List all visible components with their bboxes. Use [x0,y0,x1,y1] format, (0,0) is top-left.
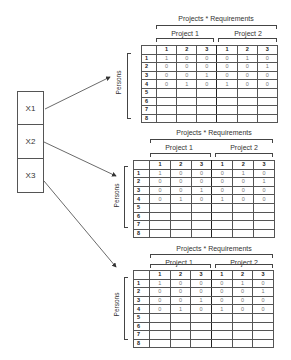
requirement-header: 1 [150,271,171,280]
requirement-header: 1 [217,46,237,55]
assignment-cell: 0 [170,288,191,297]
assignment-cell: 0 [217,54,237,63]
assignment-cell: 0 [150,288,171,297]
assignment-cell [197,88,217,97]
persons-axis-label: Persons [115,63,122,103]
arrow-x3-to-matrix-3 [44,181,116,267]
assignment-cell: 0 [191,305,212,314]
table-row: 7 [134,221,275,230]
person-label: 6 [142,97,157,106]
assignment-cell [191,331,212,340]
requirement-header: 2 [232,271,253,280]
assignment-cell: 0 [157,71,177,80]
assignment-cell [254,229,275,238]
arrow-x2-to-matrix-2 [44,142,116,176]
assignment-cell: 0 [150,178,171,187]
assignment-cell: 0 [157,80,177,89]
assignment-cell: 1 [233,169,254,178]
assignment-cell [257,114,277,123]
assignment-cell [150,229,171,238]
assignment-cell: 0 [217,71,237,80]
requirement-header: 1 [157,46,177,55]
project-1-bracket [150,264,211,268]
assignment-cell: 0 [253,305,274,314]
persons-bracket [124,277,128,340]
source-box-x1: X1 [17,91,44,125]
person-label: 8 [142,114,157,123]
person-label: 4 [142,80,157,89]
assignment-cell [157,114,177,123]
assignment-cell [177,106,197,115]
table-row: 1100010 [134,279,274,288]
table-row: 6 [134,322,274,331]
assignment-cell [254,221,275,230]
person-label: 2 [142,63,157,72]
project-2-bracket [218,38,277,42]
assignment-cell [191,203,212,212]
project-2-label: Project 2 [220,30,276,37]
assignment-cell: 0 [211,279,232,288]
assignment-cell [170,203,191,212]
assignment-cell: 0 [191,288,212,297]
assignment-cell [217,97,237,106]
person-label: 8 [134,339,150,348]
assignment-cell [211,313,232,322]
table-row: 2000001 [134,178,275,187]
assignment-cell [191,221,212,230]
assignment-cell: 1 [170,305,191,314]
assignment-cell [150,203,171,212]
source-box-x3: X3 [17,159,44,193]
assignment-cell [217,114,237,123]
assignment-cell: 0 [212,169,233,178]
projects-bracket [150,139,273,143]
person-label: 1 [142,54,157,63]
project-2-label: Project 2 [216,144,272,151]
arrow-x1-to-matrix-1 [45,77,110,109]
assignment-table: 12312311000102000001300100040101005678 [133,160,275,238]
matrix-title: Projects * Requirements [160,15,272,22]
assignment-cell [157,97,177,106]
assignment-cell [197,106,217,115]
assignment-cell: 0 [257,80,277,89]
person-label: 1 [134,279,150,288]
assignment-cell [237,88,257,97]
matrix-title: Projects * Requirements [158,129,270,136]
assignment-cell: 0 [254,186,275,195]
assignment-cell: 0 [232,305,253,314]
assignment-cell: 0 [150,305,171,314]
assignment-cell: 0 [211,296,232,305]
person-label: 1 [134,169,150,178]
person-label: 3 [142,71,157,80]
persons-axis-label: Persons [113,176,120,216]
assignment-cell: 0 [150,195,171,204]
projects-bracket [150,254,273,258]
person-label: 4 [134,305,150,314]
requirement-header: 3 [191,161,212,170]
assignment-cell: 1 [211,305,232,314]
assignment-cell [150,313,171,322]
header-row: 123123 [134,271,274,280]
header-row: 123123 [142,46,278,55]
table-row: 8 [142,114,278,123]
person-label: 5 [142,88,157,97]
assignment-cell [157,106,177,115]
assignment-cell: 1 [150,169,171,178]
assignment-cell: 0 [232,296,253,305]
table-row: 5 [134,313,274,322]
table-row: 8 [134,339,274,348]
assignment-cell: 0 [191,279,212,288]
matrix-title: Projects * Requirements [158,245,270,252]
assignment-cell: 0 [170,279,191,288]
assignment-cell [253,313,274,322]
assignment-cell [191,322,212,331]
assignment-cell: 0 [253,296,274,305]
assignment-cell [177,88,197,97]
table-row: 3001000 [134,296,274,305]
assignment-cell [191,229,212,238]
header-row: 123123 [134,161,275,170]
assignment-cell: 0 [177,63,197,72]
assignment-cell: 0 [257,54,277,63]
assignment-table: 12312311000102000001300100040101005678 [141,45,278,123]
assignment-cell [212,212,233,221]
requirement-header: 1 [150,161,171,170]
